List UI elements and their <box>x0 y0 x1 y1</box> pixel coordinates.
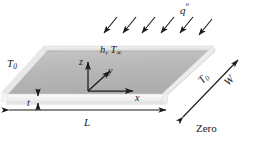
axis-x-label: x <box>135 93 139 103</box>
plate-front-left-corner <box>1 92 8 103</box>
thickness-label: t <box>27 98 30 108</box>
heat-flux-arrow <box>142 17 155 33</box>
heat-flux-arrow <box>104 17 117 33</box>
convection-label: h, T∞ <box>100 45 122 56</box>
axis-z-label: z <box>79 57 83 67</box>
heat-flux-arrow <box>180 17 193 33</box>
plate-back-bevel <box>44 46 215 51</box>
temperature-left-label: T0 <box>7 58 17 70</box>
length-label: L <box>84 117 90 128</box>
plate-front-shadow <box>6 103 167 105</box>
footer-caption: Zero <box>196 123 217 134</box>
heat-flux-label: qʺ <box>180 3 188 16</box>
heat-flux-arrow <box>199 19 212 35</box>
axis-y-label: y <box>108 66 112 76</box>
plate-front-thickness-face <box>7 94 168 103</box>
heat-flux-arrow <box>123 17 136 33</box>
plate-front-right-corner <box>162 93 168 103</box>
heat-flux-arrow <box>161 17 174 33</box>
heat-transfer-schematic-figure: qʺ h, T∞ T0 T0 W z y x t L Zero <box>0 0 260 145</box>
heat-flux-arrow-group <box>104 17 212 35</box>
schematic-drawing <box>0 0 260 145</box>
